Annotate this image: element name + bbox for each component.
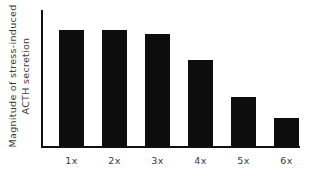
x-axis-tick-label: 5x <box>231 155 256 166</box>
bar <box>145 34 170 146</box>
x-axis-tick-label: 4x <box>188 155 213 166</box>
bar-chart-figure: Magnitude of stress-induced ACTH secreti… <box>0 0 317 182</box>
y-axis-label-line-2: ACTH secretion <box>19 5 32 148</box>
x-axis-tick-label: 3x <box>145 155 170 166</box>
x-axis-tick-label: 6x <box>274 155 299 166</box>
bar <box>102 30 127 146</box>
plot-area <box>41 10 300 148</box>
y-axis-label-text: Magnitude of stress-induced ACTH secreti… <box>6 5 32 148</box>
x-axis-tick-label: 1x <box>59 155 84 166</box>
bar <box>274 118 299 146</box>
y-axis-label: Magnitude of stress-induced ACTH secreti… <box>0 0 38 152</box>
y-axis-label-line-1: Magnitude of stress-induced <box>6 5 19 148</box>
x-axis-tick-labels: 1x2x3x4x5x6x <box>41 155 300 173</box>
bar <box>231 97 256 146</box>
x-axis-line <box>41 146 300 148</box>
bar <box>188 60 213 146</box>
bar <box>59 30 84 146</box>
x-axis-tick-label: 2x <box>102 155 127 166</box>
bar-series <box>41 10 300 146</box>
